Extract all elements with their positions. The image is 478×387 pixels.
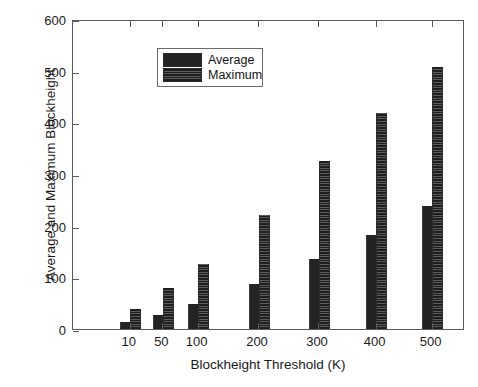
y-axis-title-host: Average and Maximum Blockheight: [18, 20, 36, 330]
y-tick-mark: [73, 176, 79, 177]
figure-canvas: 0100200300400500600 Average and Maximum …: [0, 0, 478, 387]
x-tick-label: 200: [246, 334, 268, 349]
x-tick-mark: [162, 323, 163, 329]
x-tick-mark-top: [130, 21, 131, 27]
y-tick-mark: [73, 279, 79, 280]
x-tick-label: 100: [186, 334, 208, 349]
bar-maximum-500: [432, 67, 443, 329]
x-tick-label: 10: [122, 334, 136, 349]
x-tick-mark: [318, 323, 319, 329]
x-axis-title: Blockheight Threshold (K): [72, 357, 464, 372]
x-tick-label: 400: [364, 334, 386, 349]
x-tick-mark: [432, 323, 433, 329]
y-tick-mark: [73, 73, 79, 74]
legend-swatch-average: [163, 53, 202, 67]
bar-maximum-50: [163, 288, 174, 329]
plot-area: Average Maximum: [72, 20, 464, 330]
legend-swatch-maximum: [163, 68, 202, 82]
y-tick-mark: [73, 124, 79, 125]
legend-label-average: Average: [208, 54, 254, 67]
x-tick-mark: [198, 323, 199, 329]
x-tick-mark-top: [162, 21, 163, 27]
y-tick-mark: [73, 331, 79, 332]
x-tick-mark-top: [376, 21, 377, 27]
x-tick-label: 50: [154, 334, 168, 349]
x-tick-mark-top: [432, 21, 433, 27]
x-tick-label: 300: [306, 334, 328, 349]
legend-entry-average: Average: [163, 53, 257, 67]
chart-legend: Average Maximum: [157, 48, 263, 87]
x-tick-mark: [258, 323, 259, 329]
bar-maximum-400: [376, 113, 387, 329]
x-tick-mark: [130, 323, 131, 329]
bar-maximum-10: [130, 309, 141, 329]
x-tick-label: 500: [420, 334, 442, 349]
bar-maximum-200: [259, 215, 270, 329]
x-tick-mark: [376, 323, 377, 329]
bar-maximum-100: [198, 264, 209, 329]
legend-label-maximum: Maximum: [208, 69, 262, 82]
x-tick-mark-top: [318, 21, 319, 27]
legend-entry-maximum: Maximum: [163, 68, 257, 82]
x-tick-mark-top: [258, 21, 259, 27]
y-axis-title: Average and Maximum Blockheight: [43, 25, 58, 325]
y-tick-mark: [73, 228, 79, 229]
y-tick-mark: [73, 21, 79, 22]
x-tick-mark-top: [198, 21, 199, 27]
bar-maximum-300: [319, 161, 330, 329]
